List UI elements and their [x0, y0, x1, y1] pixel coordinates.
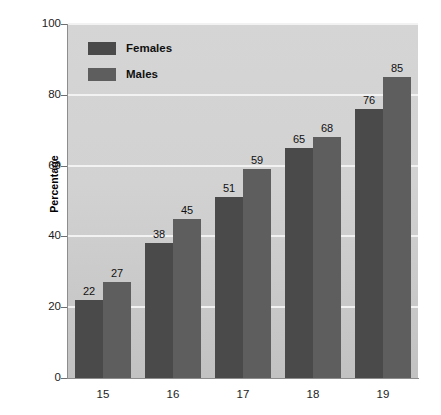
y-tick-label: 100 — [35, 18, 61, 29]
bar-females-16: 38 — [145, 243, 173, 378]
bar-males-19: 85 — [383, 77, 411, 378]
legend-swatch-males-icon — [88, 68, 116, 81]
bar-females-15: 22 — [75, 300, 103, 378]
bar-males-17: 59 — [243, 169, 271, 378]
bar-males-18: 68 — [313, 137, 341, 378]
bar-females-17: 51 — [215, 197, 243, 378]
y-tick-label-wrap: 0 — [0, 372, 61, 383]
legend-item-females: Females — [88, 38, 172, 58]
bar-chart: Percentage 020406080100 2227384551596568… — [0, 0, 441, 415]
plot-area: 22273845515965687685 Females Males — [68, 24, 418, 378]
bar-value-label: 38 — [153, 228, 165, 240]
bar-value-label: 68 — [321, 122, 333, 134]
x-tick-label-16: 16 — [143, 388, 203, 400]
gridline — [68, 23, 418, 25]
bar-value-label: 45 — [181, 204, 193, 216]
bar-value-label: 22 — [83, 285, 95, 297]
y-tick-label: 60 — [35, 160, 61, 171]
bar-value-label: 76 — [363, 94, 375, 106]
y-tick-label-wrap: 20 — [0, 301, 61, 312]
bar-value-label: 65 — [293, 133, 305, 145]
bar-females-18: 65 — [285, 148, 313, 378]
bar-males-16: 45 — [173, 219, 201, 378]
y-tick-label-wrap: 60 — [0, 160, 61, 171]
x-tick-label-18: 18 — [283, 388, 343, 400]
bar-males-15: 27 — [103, 282, 131, 378]
bar-value-label: 27 — [111, 267, 123, 279]
y-tick-label: 0 — [35, 372, 61, 383]
legend-item-males: Males — [88, 64, 172, 84]
x-tick-label-19: 19 — [353, 388, 413, 400]
y-axis-title: Percentage — [48, 124, 60, 244]
bar-value-label: 85 — [391, 62, 403, 74]
x-tick-label-17: 17 — [213, 388, 273, 400]
y-tick-label-wrap: 40 — [0, 230, 61, 241]
x-axis-line — [67, 378, 419, 379]
y-tick-label: 20 — [35, 301, 61, 312]
legend-label-males: Males — [126, 68, 158, 80]
y-tick-label: 40 — [35, 230, 61, 241]
bar-females-19: 76 — [355, 109, 383, 378]
legend-label-females: Females — [126, 42, 172, 54]
y-tick-label: 80 — [35, 89, 61, 100]
y-tick-label-wrap: 100 — [0, 18, 61, 29]
x-tick-label-15: 15 — [73, 388, 133, 400]
chart-legend: Females Males — [88, 38, 172, 90]
y-tick-label-wrap: 80 — [0, 89, 61, 100]
bar-value-label: 59 — [251, 154, 263, 166]
bar-value-label: 51 — [223, 182, 235, 194]
legend-swatch-females-icon — [88, 42, 116, 55]
